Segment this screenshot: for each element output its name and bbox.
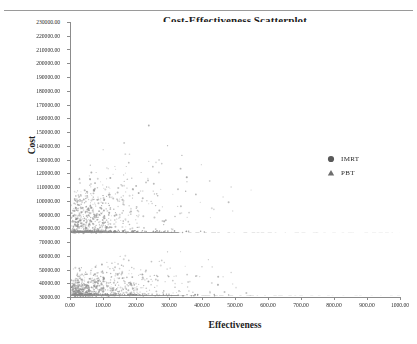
y-tick-mark <box>67 160 70 161</box>
x-tick-mark <box>367 297 368 300</box>
legend: IMRT PBT <box>326 152 386 180</box>
y-tick-label: 180000.00 <box>8 88 60 94</box>
x-tick-mark <box>301 297 302 300</box>
y-tick-label: 150000.00 <box>8 129 60 135</box>
y-tick-label: 60000.00 <box>8 253 60 259</box>
y-tick-label: 170000.00 <box>8 102 60 108</box>
y-tick-mark <box>67 242 70 243</box>
x-tick-mark <box>400 297 401 300</box>
y-tick-mark <box>67 228 70 229</box>
y-tick-label: 200000.00 <box>8 60 60 66</box>
y-tick-mark <box>67 36 70 37</box>
y-tick-label: 100000.00 <box>8 198 60 204</box>
y-tick-mark <box>67 105 70 106</box>
y-tick-mark <box>67 91 70 92</box>
x-tick-mark <box>103 297 104 300</box>
y-tick-label: 220000.00 <box>8 33 60 39</box>
y-tick-mark <box>67 201 70 202</box>
y-tick-label: 110000.00 <box>8 184 60 190</box>
y-tick-mark <box>67 118 70 119</box>
legend-item-imrt: IMRT <box>326 152 386 166</box>
y-tick-mark <box>67 270 70 271</box>
y-tick-label: 120000.00 <box>8 170 60 176</box>
x-tick-mark <box>169 297 170 300</box>
y-tick-mark <box>67 187 70 188</box>
y-tick-mark <box>67 215 70 216</box>
y-tick-label: 190000.00 <box>8 74 60 80</box>
x-axis-title: Effectiveness <box>70 320 400 330</box>
y-tick-label: 70000.00 <box>8 239 60 245</box>
y-tick-mark <box>67 22 70 23</box>
legend-label-pbt: PBT <box>341 169 355 177</box>
y-tick-mark <box>67 132 70 133</box>
y-tick-mark <box>67 173 70 174</box>
x-tick-mark <box>268 297 269 300</box>
x-tick-mark <box>334 297 335 300</box>
y-tick-label: 40000.00 <box>8 280 60 286</box>
x-tick-mark <box>70 297 71 300</box>
y-tick-label: 130000.00 <box>8 157 60 163</box>
y-tick-label: 210000.00 <box>8 47 60 53</box>
legend-item-pbt: PBT <box>326 166 386 180</box>
y-tick-label: 30000.00 <box>8 294 60 300</box>
y-tick-label: 50000.00 <box>8 267 60 273</box>
x-tick-mark <box>136 297 137 300</box>
x-tick-mark <box>202 297 203 300</box>
filled-circle-icon <box>326 154 336 164</box>
y-tick-mark <box>67 49 70 50</box>
scatterplot-figure: Cost-Effectiveness Scatterplot Cost Effe… <box>0 0 417 344</box>
y-tick-label: 140000.00 <box>8 143 60 149</box>
y-tick-mark <box>67 77 70 78</box>
filled-triangle-icon <box>326 168 336 178</box>
y-tick-label: 230000.00 <box>8 19 60 25</box>
y-tick-mark <box>67 146 70 147</box>
y-tick-label: 160000.00 <box>8 115 60 121</box>
legend-label-imrt: IMRT <box>341 155 359 163</box>
y-axis-line <box>70 22 71 298</box>
y-tick-mark <box>67 283 70 284</box>
y-tick-label: 80000.00 <box>8 225 60 231</box>
y-tick-mark <box>67 63 70 64</box>
x-tick-mark <box>235 297 236 300</box>
x-tick-label: 1000.00 <box>378 302 417 309</box>
header-divider <box>4 10 413 11</box>
y-tick-label: 90000.00 <box>8 212 60 218</box>
y-tick-mark <box>67 256 70 257</box>
